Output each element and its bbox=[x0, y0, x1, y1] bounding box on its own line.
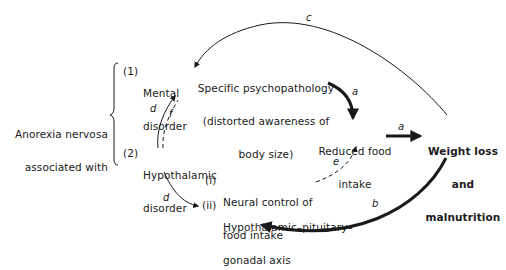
reduced-line1: Reduced food bbox=[310, 146, 400, 157]
label-f: f bbox=[169, 108, 173, 119]
mental-line1: Mental bbox=[143, 88, 187, 99]
weight-line2: and bbox=[420, 179, 506, 190]
label-a2: a bbox=[398, 121, 404, 132]
neural-num: (i) bbox=[205, 175, 216, 186]
mental-num: (1) bbox=[123, 66, 138, 77]
mental-line2: disorder bbox=[143, 121, 187, 132]
label-d2: d bbox=[163, 192, 169, 203]
axis-num: (ii) bbox=[202, 200, 216, 211]
reduced-label: Reduced food intake bbox=[310, 124, 400, 201]
brace bbox=[110, 63, 118, 165]
axis-label: Hypothalamic–pituitary– gonadal axis bbox=[223, 200, 353, 270]
label-b: b bbox=[372, 198, 378, 209]
label-e: e bbox=[333, 156, 339, 167]
psycho-line1: Specific psychopathology bbox=[194, 83, 338, 94]
root-line2: associated with bbox=[0, 162, 108, 173]
hypo-num: (2) bbox=[123, 148, 138, 159]
reduced-line2: intake bbox=[310, 179, 400, 190]
weight-line3: malnutrition bbox=[420, 212, 506, 223]
label-d1: d bbox=[150, 103, 156, 114]
weight-label: Weight loss and malnutrition bbox=[420, 124, 506, 234]
label-c: c bbox=[306, 12, 312, 23]
root-label: Anorexia nervosa associated with bbox=[0, 107, 108, 184]
label-a1: a bbox=[352, 86, 358, 97]
axis-line1: Hypothalamic–pituitary– bbox=[223, 222, 353, 233]
axis-line2: gonadal axis bbox=[223, 255, 353, 266]
root-line1: Anorexia nervosa bbox=[0, 129, 108, 140]
weight-line1: Weight loss bbox=[420, 146, 506, 157]
